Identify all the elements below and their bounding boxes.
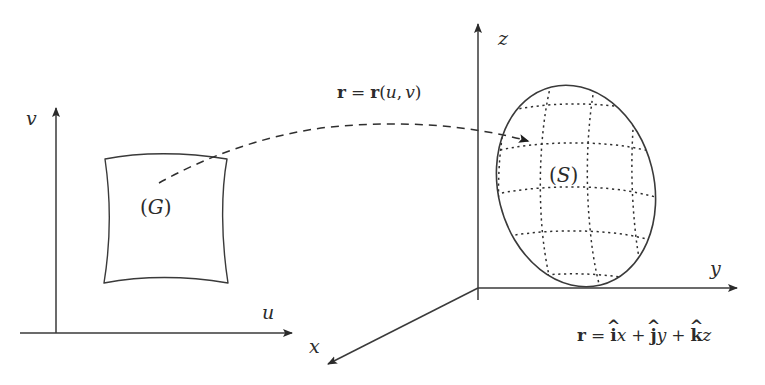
mapping-close-paren: ) bbox=[415, 82, 422, 102]
y-axis-label: y bbox=[710, 259, 721, 278]
surface-s-symbol: S bbox=[557, 163, 571, 187]
k-hat-icon: ^k bbox=[691, 327, 703, 344]
k-hat-mark: ^ bbox=[690, 319, 704, 335]
i-hat-icon: ^i bbox=[610, 327, 616, 344]
parametric-surface-diagram: v u (G) z y x (S) r=r(u,v) r=^ix+^jy+^kz bbox=[0, 0, 765, 385]
x-axis-label: x bbox=[309, 337, 320, 356]
v-axis-label: v bbox=[26, 109, 37, 128]
z-axis-label: z bbox=[498, 29, 508, 48]
position-plus-1: + bbox=[631, 325, 645, 345]
xyz-axes-group bbox=[328, 24, 737, 364]
surface-s-close-paren: ) bbox=[571, 163, 579, 187]
mapping-open-paren: ( bbox=[379, 82, 386, 102]
x-axis-line bbox=[328, 288, 478, 364]
surface-grid-lines bbox=[474, 78, 690, 306]
mapping-equals: = bbox=[351, 82, 365, 102]
region-g-symbol: G bbox=[148, 195, 164, 219]
position-plus-2: + bbox=[671, 325, 685, 345]
uv-axes-group bbox=[20, 108, 292, 333]
surface-s-shape bbox=[474, 68, 690, 306]
mapping-param-v: v bbox=[405, 82, 415, 102]
surface-s-open-paren: ( bbox=[549, 163, 557, 187]
region-g-label: (G) bbox=[140, 197, 172, 217]
position-lhs-vector: r bbox=[577, 325, 586, 345]
position-equals: = bbox=[591, 325, 605, 345]
mapping-param-u: u bbox=[386, 82, 397, 102]
mapping-comma: , bbox=[397, 82, 402, 102]
j-hat-mark: ^ bbox=[647, 319, 661, 335]
mapping-lhs-vector: r bbox=[337, 82, 346, 102]
region-g-close-paren: ) bbox=[164, 195, 172, 219]
region-g-open-paren: ( bbox=[140, 195, 148, 219]
surface-s-label: (S) bbox=[549, 165, 578, 185]
u-axis-label: u bbox=[262, 303, 274, 322]
mapping-dashed-arrow bbox=[159, 124, 528, 183]
position-z: z bbox=[702, 325, 711, 345]
j-hat-icon: ^j bbox=[651, 327, 657, 344]
position-vector-formula: r=^ix+^jy+^kz bbox=[577, 327, 711, 344]
i-hat-mark: ^ bbox=[607, 319, 621, 335]
mapping-formula: r=r(u,v) bbox=[337, 84, 421, 101]
mapping-rhs-vector: r bbox=[370, 82, 379, 102]
